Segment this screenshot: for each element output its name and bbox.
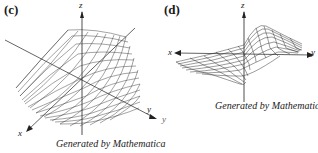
surface-plot-d (160, 0, 318, 153)
surface-plot-c (0, 0, 160, 153)
panel-label-d: (d) (164, 2, 180, 18)
stray-y-label: y (162, 114, 166, 124)
figure-c: (c) z y x Generated by Mathematica (0, 0, 160, 153)
z-axis-label-d: z (241, 0, 245, 10)
y-axis-label-d: y (311, 47, 315, 57)
panel-label-c: (c) (4, 2, 18, 18)
y-axis-label-c: y (147, 104, 151, 114)
x-axis-label-c: x (18, 128, 22, 138)
z-axis-label-c: z (79, 0, 83, 10)
x-axis-label-d: x (168, 47, 172, 57)
caption-d: Generated by Mathematica (215, 100, 318, 111)
caption-c: Generated by Mathematica (56, 138, 165, 149)
figure-d: (d) z x y Generated by Mathematica y (160, 0, 318, 153)
